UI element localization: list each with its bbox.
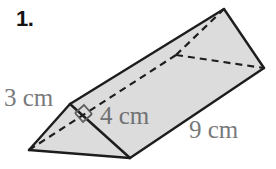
problem-number: 1. — [16, 8, 33, 30]
dimension-label-slant-side: 3 cm — [4, 85, 53, 110]
figure-page: 1. 3 cm 4 cm 9 cm — [0, 0, 276, 169]
dimension-label-height: 4 cm — [100, 103, 149, 128]
dimension-label-length: 9 cm — [189, 117, 238, 142]
